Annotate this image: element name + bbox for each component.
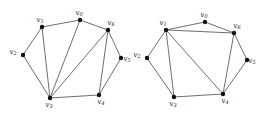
vertex-label-subscript-v5: 5 xyxy=(252,59,255,65)
vertex-label-subscript-v4: 4 xyxy=(224,99,228,105)
right-graph-vertices: v0v1v2v3v4v5v6 xyxy=(133,11,255,108)
vertex-v3 xyxy=(172,95,176,99)
edge-v4-v5 xyxy=(223,60,247,94)
graph-figure: v0v1v2v3v4v5v6v0v1v2v3v4v5v6 xyxy=(0,0,265,119)
vertex-v0 xyxy=(78,18,82,22)
vertex-label-v0: v0 xyxy=(200,11,208,19)
vertex-v6 xyxy=(106,28,110,32)
edge-v5-v6 xyxy=(234,33,247,60)
vertex-label-subscript-v0: 0 xyxy=(79,11,83,17)
vertex-v1 xyxy=(164,28,168,32)
vertex-label-v6: v6 xyxy=(233,22,241,30)
right-graph: v0v1v2v3v4v5v6 xyxy=(133,11,255,108)
vertex-label-v4: v4 xyxy=(221,97,228,105)
edge-v6-v5 xyxy=(108,30,121,58)
edge-v3-v4 xyxy=(174,94,223,97)
left-graph-vertices: v0v1v2v3v4v5v6 xyxy=(9,9,130,109)
vertex-label-v6: v6 xyxy=(107,19,115,27)
vertex-label-v4: v4 xyxy=(97,98,104,106)
edge-v6-v4 xyxy=(99,30,108,95)
vertex-label-v5: v5 xyxy=(248,57,255,65)
edge-v5-v4 xyxy=(99,58,121,95)
graph-canvas: v0v1v2v3v4v5v6v0v1v2v3v4v5v6 xyxy=(0,0,265,119)
edge-v1-v0 xyxy=(166,22,205,30)
vertex-v2 xyxy=(21,53,25,57)
vertex-label-subscript-v2: 2 xyxy=(12,50,16,56)
vertex-label-v0: v0 xyxy=(75,9,83,17)
vertex-label-v5: v5 xyxy=(123,55,130,63)
vertex-label-subscript-v4: 4 xyxy=(100,100,104,106)
left-graph-edges xyxy=(23,20,121,98)
vertex-label-subscript-v3: 3 xyxy=(173,102,176,108)
vertex-label-v3: v3 xyxy=(169,100,176,108)
vertex-v6 xyxy=(232,31,236,35)
vertex-label-subscript-v0: 0 xyxy=(204,13,208,19)
graphs-root: v0v1v2v3v4v5v6v0v1v2v3v4v5v6 xyxy=(9,9,255,109)
vertex-label-subscript-v1: 1 xyxy=(40,18,43,24)
vertex-label-v1: v1 xyxy=(36,16,43,24)
vertex-label-subscript-v6: 6 xyxy=(111,21,115,27)
left-graph: v0v1v2v3v4v5v6 xyxy=(9,9,130,109)
vertex-label-subscript-v1: 1 xyxy=(163,21,166,27)
vertex-label-subscript-v3: 3 xyxy=(49,103,52,109)
vertex-label-v2: v2 xyxy=(133,51,140,59)
edge-v0-v3 xyxy=(50,20,80,98)
vertex-label-subscript-v2: 2 xyxy=(136,53,140,59)
vertex-v4 xyxy=(221,92,225,96)
vertex-label-v1: v1 xyxy=(159,19,166,27)
vertex-v2 xyxy=(145,56,149,60)
edge-v4-v6 xyxy=(223,33,234,94)
vertex-label-v3: v3 xyxy=(45,101,52,109)
edge-v0-v6 xyxy=(205,22,234,33)
edge-v3-v4 xyxy=(50,95,99,98)
vertex-v0 xyxy=(203,20,207,24)
vertex-v3 xyxy=(48,96,52,100)
edge-v1-v4 xyxy=(166,30,223,94)
vertex-label-subscript-v6: 6 xyxy=(237,24,241,30)
edge-v6-v3 xyxy=(50,30,108,98)
edge-v1-v2 xyxy=(23,27,42,55)
vertex-label-subscript-v5: 5 xyxy=(127,57,130,63)
edge-v0-v6 xyxy=(80,20,108,30)
vertex-label-v2: v2 xyxy=(9,48,16,56)
edge-v1-v6 xyxy=(166,30,234,33)
edge-v1-v2 xyxy=(147,30,166,58)
vertex-v1 xyxy=(40,25,44,29)
edge-v1-v0 xyxy=(42,20,80,27)
vertex-v4 xyxy=(97,93,101,97)
